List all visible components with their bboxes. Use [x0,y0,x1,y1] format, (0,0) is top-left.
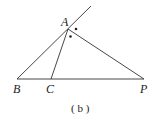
line-BA-extended [17,6,91,79]
angle-mark-dot-lower [69,35,72,38]
segment-AP [68,29,144,79]
label-A: A [60,15,69,29]
geometry-diagram: A B C P ( b ) [0,0,161,122]
label-C: C [46,82,55,96]
angle-mark-dot-upper [75,28,78,31]
label-P: P [139,82,148,96]
figure-caption: ( b ) [71,102,90,115]
label-B: B [13,82,21,96]
